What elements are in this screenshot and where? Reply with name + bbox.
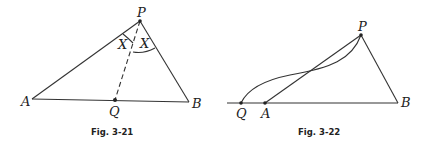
point-q [113, 98, 117, 102]
side-ab [32, 99, 189, 102]
label-b: B [400, 95, 411, 110]
segment-pb [361, 35, 398, 103]
caption-fig-3-21: Fig. 3-21 [91, 127, 133, 137]
side-pb [140, 21, 189, 102]
segment-ap [265, 35, 361, 103]
label-angle-x-right: X [139, 36, 150, 51]
curve-qp [241, 35, 361, 103]
figure-3-22: P Q A B Fig. 3-22 [227, 19, 411, 137]
bisector-pq [115, 21, 140, 100]
label-p: P [357, 19, 367, 34]
caption-fig-3-22: Fig. 3-22 [298, 127, 340, 137]
point-a [263, 101, 267, 105]
figure-3-21: P X X A B Q Fig. 3-21 [20, 5, 202, 137]
label-a: A [20, 94, 30, 109]
label-a: A [260, 106, 270, 121]
side-ap [32, 21, 140, 99]
figures-canvas: P X X A B Q Fig. 3-21 P Q A B Fig. 3-22 [0, 0, 431, 149]
label-q: Q [236, 106, 247, 121]
point-q [239, 101, 243, 105]
label-b: B [191, 96, 202, 111]
label-q: Q [109, 104, 120, 119]
label-p: P [136, 5, 146, 20]
label-angle-x-left: X [117, 37, 128, 52]
